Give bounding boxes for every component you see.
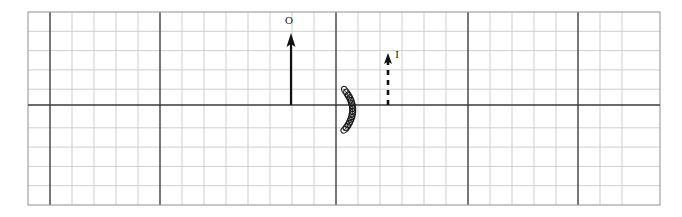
i-label: I — [395, 48, 399, 60]
figure-canvas: O I — [0, 0, 682, 217]
o-label: O — [285, 14, 293, 26]
canvas-background — [0, 0, 682, 217]
physics-grid-figure: O I — [0, 0, 682, 217]
